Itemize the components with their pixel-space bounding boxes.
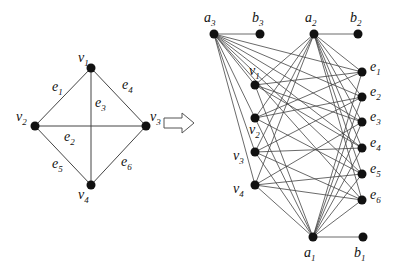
node-label-a2: a2 [305,10,317,28]
node-label-e3: e3 [370,109,381,127]
edge-a2-e1 [314,34,362,72]
node-label-e1: e1 [370,59,381,77]
node-label-a3: a3 [204,10,216,28]
node-v4 [251,181,260,190]
edge-a1-v4 [255,185,313,237]
edge-e5 [35,126,91,185]
node-label-e5: e5 [370,161,381,179]
node-label-e2: e2 [370,84,381,102]
edge-e6 [91,126,146,185]
edge-label-e5: e5 [52,156,63,174]
edge-v3-e4 [255,148,362,152]
node-b1 [359,233,368,242]
edge-e1 [35,68,91,126]
edge-a2-v1 [255,34,314,85]
node-v2 [31,122,40,131]
edge-a3-e4 [214,34,362,148]
node-b2 [354,30,363,39]
node-e4 [358,144,367,153]
node-a2 [310,30,319,39]
edge-a3-e2 [214,34,362,97]
right-graph-labels: a3b3a2b2v1v2v3v4e1e2e3e4e5e6a1b1 [204,10,381,263]
node-e2 [358,93,367,102]
node-a1 [309,233,318,242]
edge-a1-e1 [313,72,362,237]
node-label-e4: e4 [370,135,381,153]
graph-transformation-diagram: e1e2e3e4e5e6v1v2v3v4 a3b3a2b2v1v2v3v4e1e… [0,0,398,273]
node-label-v3: v3 [233,148,244,166]
edge-a1-v1 [255,85,313,237]
node-label-v4: v4 [78,187,89,205]
edge-label-e6: e6 [121,154,132,172]
node-e1 [358,68,367,77]
node-v3 [251,148,260,157]
node-label-a1: a1 [304,245,316,263]
arrow-shape [164,113,194,133]
node-e6 [358,196,367,205]
edge-a1-e3 [313,122,362,237]
node-v1 [251,81,260,90]
node-label-v2: v2 [16,109,27,127]
node-label-b1: b1 [354,245,366,263]
node-a3 [210,30,219,39]
node-v4 [87,181,96,190]
edge-label-e3: e3 [95,95,106,113]
edge-v2-e2 [255,97,362,118]
node-label-v1: v1 [78,50,89,68]
edge-label-e1: e1 [52,79,63,97]
edge-a2-e2 [314,34,362,97]
node-b3 [256,30,265,39]
edge-a2-e4 [314,34,362,148]
diagram-svg: e1e2e3e4e5e6v1v2v3v4 a3b3a2b2v1v2v3v4e1e… [0,0,398,273]
node-label-v4: v4 [233,181,244,199]
edge-a3-e1 [214,34,362,72]
node-label-v3: v3 [150,109,161,127]
transform-arrow-icon [164,113,194,133]
node-label-b2: b2 [350,10,362,28]
right-graph-edges [214,34,363,237]
edge-a2-e3 [314,34,362,122]
node-label-e6: e6 [370,187,381,205]
edge-label-e2: e2 [64,129,75,147]
node-label-v1: v1 [249,63,260,81]
node-e3 [358,118,367,127]
edge-label-e4: e4 [122,77,133,95]
node-label-b3: b3 [252,10,264,28]
node-e5 [358,170,367,179]
